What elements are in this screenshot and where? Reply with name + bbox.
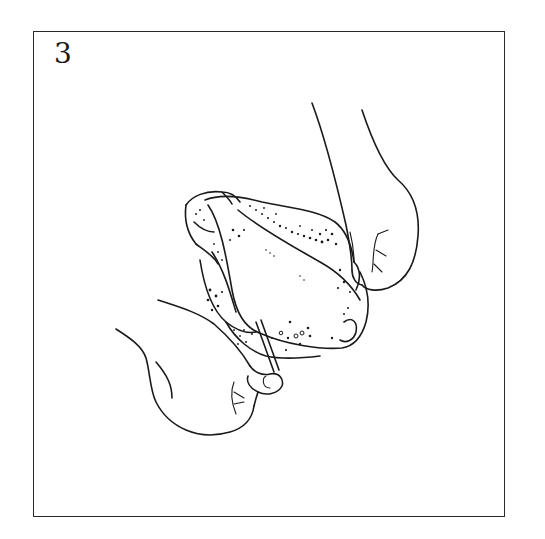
poultry-carcass bbox=[185, 192, 368, 359]
poultry-illustration bbox=[0, 0, 545, 539]
left-hand bbox=[116, 300, 283, 435]
knife bbox=[256, 320, 279, 372]
right-hand bbox=[312, 103, 418, 290]
